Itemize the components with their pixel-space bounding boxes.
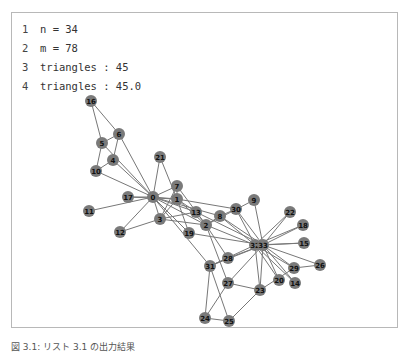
graph-node-28: 28 [222,252,234,264]
node-label: 12 [115,229,125,237]
graph-node-20: 20 [273,274,285,286]
node-label: 21 [155,154,165,162]
node-label: 25 [224,318,234,326]
node-label: 8 [218,213,223,221]
node-label: 1 [175,196,180,204]
node-label: 28 [223,255,233,263]
network-graph: 0123456789101112131415161718192021222324… [0,0,407,352]
graph-node-1: 1 [171,193,183,205]
graph-edge [263,212,290,245]
graph-node-4: 4 [107,154,119,166]
node-label: 2 [204,222,209,230]
graph-node-10: 10 [90,165,102,177]
graph-edge [119,134,153,197]
node-label: 10 [91,168,101,176]
node-label: 5 [100,140,105,148]
graph-node-23: 23 [254,284,266,296]
node-label: 24 [200,315,210,323]
graph-node-11: 11 [83,205,95,217]
node-label: 9 [252,197,257,205]
node-label: 26 [315,262,325,270]
graph-edge [210,266,229,321]
graph-node-6: 6 [113,128,125,140]
graph-edge [229,290,260,321]
node-label: 23 [255,287,265,295]
graph-node-26: 26 [314,259,326,271]
graph-node-0: 0 [147,191,159,203]
node-label: 4 [111,157,116,165]
graph-node-30: 30 [230,203,242,215]
graph-node-25: 25 [223,315,235,327]
graph-node-18: 18 [297,219,309,231]
node-label: 13 [191,209,201,217]
graph-node-31: 31 [204,260,216,272]
graph-node-8: 8 [214,210,226,222]
node-label: 31 [205,263,215,271]
graph-nodes: 0123456789101112131415161718192021222324… [83,95,326,327]
graph-edge [228,245,263,283]
graph-node-9: 9 [248,194,260,206]
graph-node-5: 5 [96,137,108,149]
figure-caption: 図 3.1: リスト 3.1 の出力結果 [11,340,135,352]
node-label: 29 [289,265,299,273]
graph-edge [89,197,153,211]
graph-edge [160,219,206,225]
node-label: 18 [298,222,308,230]
graph-node-24: 24 [199,312,211,324]
graph-node-29: 29 [288,262,300,274]
node-label: 0 [151,194,156,202]
node-label: 7 [175,183,180,191]
graph-edge [153,157,160,197]
node-label: 17 [123,194,133,202]
graph-node-7: 7 [171,180,183,192]
node-label: 22 [285,209,295,217]
node-label: 15 [299,240,309,248]
graph-node-22: 22 [284,206,296,218]
node-label: 27 [223,280,233,288]
graph-node-21: 21 [154,151,166,163]
node-label: 20 [274,277,284,285]
graph-node-19: 19 [183,227,195,239]
graph-edge [263,225,303,245]
node-label: 30 [231,206,241,214]
node-label: 6 [117,131,122,139]
graph-node-27: 27 [222,277,234,289]
node-label: 19 [184,230,194,238]
graph-edge [113,160,153,197]
node-label: 16 [86,98,96,106]
node-label: 33 [258,242,268,250]
graph-node-12: 12 [114,226,126,238]
node-label: 14 [290,280,300,288]
graph-edge [205,283,228,318]
graph-node-2: 2 [200,219,212,231]
graph-node-3: 3 [154,213,166,225]
graph-node-16: 16 [85,95,97,107]
graph-edge [102,143,153,197]
node-label: 3 [158,216,163,224]
graph-edge [206,200,254,225]
graph-edge [205,266,210,318]
graph-node-17: 17 [122,191,134,203]
graph-edge [236,209,255,245]
graph-node-14: 14 [289,277,301,289]
graph-node-33: 33 [257,239,269,251]
graph-node-15: 15 [298,237,310,249]
node-label: 11 [84,208,94,216]
graph-node-13: 13 [190,206,202,218]
